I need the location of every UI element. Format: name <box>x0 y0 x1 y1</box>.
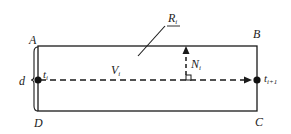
normal-arrowhead-icon <box>183 46 190 54</box>
direction-vector-label: Vi <box>111 63 120 78</box>
width-label: d <box>19 74 26 88</box>
start-point-label: ti <box>43 68 48 82</box>
road-segment-diagram: A B C D d ti ti+1 Vi Ni Ri <box>0 0 291 134</box>
right-angle-marker <box>186 75 191 80</box>
segment-rectangle <box>38 46 257 111</box>
start-point-dot <box>34 76 41 83</box>
end-point-dot <box>253 76 260 83</box>
end-point-label: ti+1 <box>264 72 277 86</box>
corner-label-a: A <box>28 33 37 47</box>
direction-arrowhead-icon <box>244 77 252 84</box>
region-label: Ri <box>167 11 177 26</box>
normal-vector-label: Ni <box>190 57 201 72</box>
corner-label-c: C <box>255 115 264 129</box>
corner-label-d: D <box>33 116 43 130</box>
corner-label-b: B <box>253 27 261 41</box>
region-leader-line <box>138 26 165 56</box>
